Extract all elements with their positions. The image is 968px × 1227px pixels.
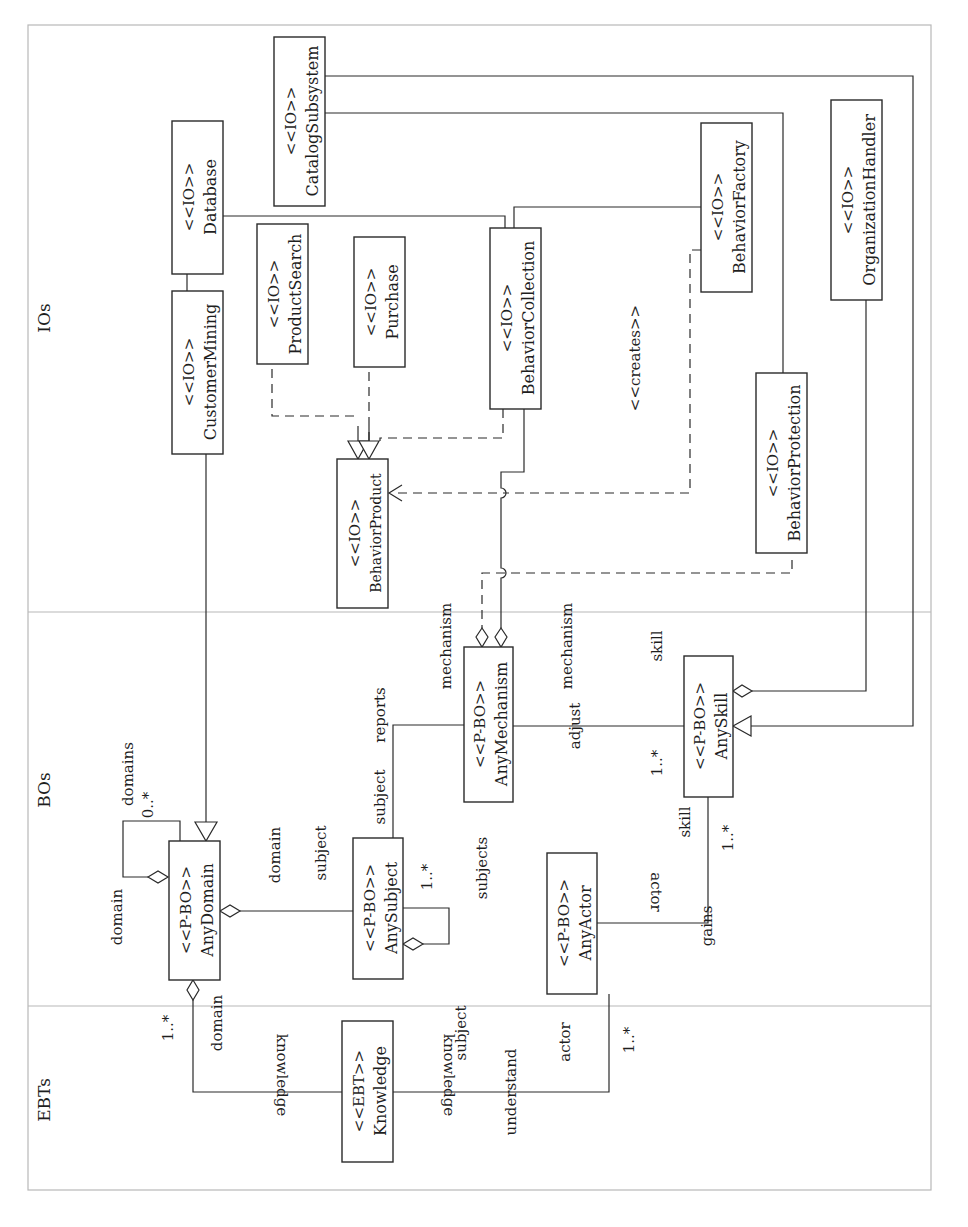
stereotype-label: <<IO>> bbox=[709, 173, 727, 242]
collection-mechanism-line bbox=[501, 409, 524, 628]
role-label-mechanism: mechanism bbox=[437, 603, 455, 689]
class-name: OrganizationHandler bbox=[860, 114, 879, 286]
role-label-domain: domain bbox=[208, 995, 226, 1052]
class-name: BehaviorProtection bbox=[785, 385, 804, 542]
class-name: BehaviorCollection bbox=[519, 241, 538, 396]
role-label-domains: domains bbox=[119, 742, 137, 806]
aggregation-diamond-icon bbox=[476, 628, 488, 647]
stereotype-label: <<IO>> bbox=[498, 284, 516, 353]
multiplicity-label: 1..* bbox=[648, 749, 666, 776]
stereotype-label: <<IO>> bbox=[180, 338, 198, 407]
multiplicity-label: 1..* bbox=[418, 863, 436, 890]
role-label-knowledge: knowledge bbox=[273, 1034, 291, 1116]
class-name: Knowledge bbox=[371, 1046, 390, 1136]
aggregation-diamond-icon bbox=[495, 628, 507, 647]
class-any-subject[interactable]: <<P-BO>> AnySubject bbox=[353, 838, 403, 979]
class-behavior-collection[interactable]: <<IO>> BehaviorCollection bbox=[490, 228, 541, 409]
class-any-actor[interactable]: <<P-BO>> AnyActor bbox=[547, 853, 597, 994]
role-label-domain: domain bbox=[266, 827, 284, 884]
role-label-subject: subject bbox=[371, 770, 389, 825]
class-name: CustomerMining bbox=[201, 304, 220, 441]
class-any-domain[interactable]: <<P-BO>> AnyDomain bbox=[169, 841, 220, 980]
creates-label: <<creates>> bbox=[626, 305, 644, 411]
class-behavior-protection[interactable]: <<IO>> BehaviorProtection bbox=[756, 373, 807, 553]
stereotype-label: <<IO>> bbox=[764, 429, 782, 498]
stereotype-label: <<EBT>> bbox=[350, 1050, 368, 1132]
stereotype-label: <<IO>> bbox=[265, 260, 283, 329]
class-any-mechanism[interactable]: <<P-BO>> AnyMechanism bbox=[464, 647, 513, 802]
aggregation-diamond-icon bbox=[220, 905, 240, 917]
class-any-skill[interactable]: <<P-BO>> AnySkill bbox=[684, 656, 733, 797]
multiplicity-label: 0..* bbox=[139, 791, 157, 818]
aggregation-diamond-icon bbox=[733, 685, 752, 697]
class-name: AnyActor bbox=[576, 885, 595, 961]
knowledge-actor-line bbox=[393, 994, 609, 1092]
class-customer-mining[interactable]: <<IO>> CustomerMining bbox=[172, 291, 223, 454]
subject-mechanism-line bbox=[393, 725, 464, 838]
role-label-mechanism: mechanism bbox=[558, 603, 576, 689]
class-behavior-factory[interactable]: <<IO>> BehaviorFactory bbox=[701, 123, 752, 292]
stereotype-label: <<P-BO>> bbox=[555, 879, 573, 967]
lane-label-ebts: EBTs bbox=[34, 1078, 54, 1122]
aggregation-diamond-icon bbox=[187, 980, 199, 1000]
stereotype-label: <<P-BO>> bbox=[361, 864, 379, 952]
role-label-adjust: adjust bbox=[566, 703, 584, 750]
productsearch-behaviorproduct-dash bbox=[272, 369, 356, 416]
catalog-skill-generalization-line bbox=[325, 76, 913, 726]
class-database[interactable]: <<IO>> Database bbox=[172, 121, 223, 274]
protection-mechanism-dash bbox=[482, 560, 792, 628]
class-organization-handler[interactable]: <<IO>> OrganizationHandler bbox=[831, 100, 882, 300]
class-purchase[interactable]: <<IO>> Purchase bbox=[354, 237, 405, 367]
class-product-search[interactable]: <<IO>> ProductSearch bbox=[257, 224, 308, 364]
aggregation-diamond-icon bbox=[148, 871, 168, 883]
multiplicity-label: 1..* bbox=[719, 824, 737, 851]
role-label-skill: skill bbox=[648, 630, 666, 661]
class-name: CatalogSubsystem bbox=[303, 46, 322, 197]
generalization-arrow-icon bbox=[195, 822, 217, 841]
class-name: AnyMechanism bbox=[492, 662, 511, 787]
role-label-skill: skill bbox=[676, 806, 694, 837]
stereotype-label: <<P-BO>> bbox=[691, 682, 709, 770]
subject-self-line bbox=[403, 908, 449, 944]
stereotype-label: <<IO>> bbox=[180, 163, 198, 232]
class-name: BehaviorFactory bbox=[730, 140, 749, 274]
lane-label-ios: IOs bbox=[34, 303, 54, 332]
collection-behaviorproduct-dash bbox=[380, 409, 503, 441]
role-label-reports: reports bbox=[371, 687, 389, 743]
class-name: Database bbox=[201, 159, 220, 235]
class-name: BehaviorProduct bbox=[368, 473, 384, 593]
uml-diagram: IOs BOs EBTs <<creates>> bbox=[0, 0, 968, 1227]
role-label-subject: subject bbox=[312, 826, 330, 881]
role-label-understand: understand bbox=[502, 1048, 520, 1135]
class-name: AnySkill bbox=[712, 693, 731, 761]
class-name: ProductSearch bbox=[286, 234, 305, 355]
stereotype-label: <<IO>> bbox=[346, 499, 364, 568]
class-catalog-subsystem[interactable]: <<IO>> CatalogSubsystem bbox=[274, 37, 325, 206]
stereotype-label: <<P-BO>> bbox=[177, 866, 195, 954]
class-knowledge[interactable]: <<EBT>> Knowledge bbox=[342, 1021, 393, 1162]
role-label-actor: actor bbox=[647, 872, 665, 912]
role-label-domain: domain bbox=[108, 889, 126, 946]
generalization-arrow-icon bbox=[733, 716, 751, 736]
factory-collection-line bbox=[514, 207, 701, 228]
multiplicity-label: 1..* bbox=[620, 1026, 638, 1053]
lane-label-bos: BOs bbox=[34, 772, 54, 807]
role-label-subjects: subjects bbox=[473, 837, 491, 900]
aggregation-diamond-icon bbox=[403, 938, 423, 950]
class-name: AnySubject bbox=[382, 861, 401, 955]
class-behavior-product[interactable]: <<IO>> BehaviorProduct bbox=[337, 459, 388, 608]
role-label-gains: gains bbox=[698, 906, 716, 947]
stereotype-label: <<IO>> bbox=[362, 268, 380, 337]
stereotype-label: <<IO>> bbox=[282, 87, 300, 156]
role-label-actor: actor bbox=[556, 1021, 574, 1061]
stereotype-label: <<P-BO>> bbox=[471, 680, 489, 768]
class-name: AnyDomain bbox=[198, 863, 217, 958]
class-name: Purchase bbox=[383, 264, 402, 339]
stereotype-label: <<IO>> bbox=[839, 166, 857, 235]
role-label-subject: subject bbox=[452, 1006, 470, 1061]
multiplicity-label: 1..* bbox=[159, 1014, 177, 1041]
